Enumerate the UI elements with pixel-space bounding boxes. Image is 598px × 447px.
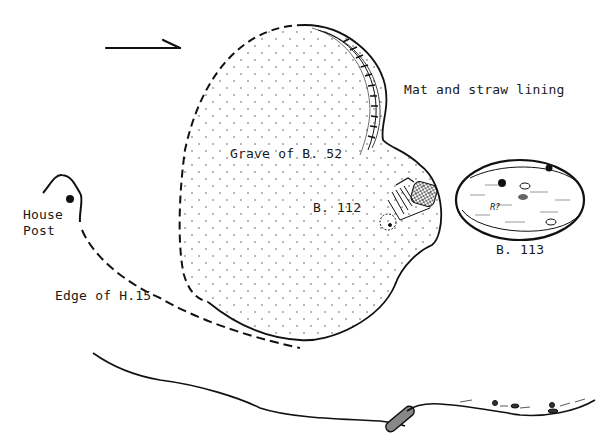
label-grave-b52: Grave of B. 52 [230, 146, 342, 161]
svg-text:R?: R? [490, 203, 501, 212]
label-house-post-line2: Post [23, 223, 55, 238]
diagram-canvas: R? [0, 0, 598, 447]
north-arrow-icon [106, 40, 180, 48]
label-b113: B. 113 [496, 242, 544, 257]
grave-b52-fill [180, 25, 441, 340]
burial-b113-pit: R? [456, 160, 584, 240]
label-b112: B. 112 [313, 200, 361, 215]
label-edge-h15: Edge of H.15 [55, 288, 151, 303]
label-house-post-line1: House [23, 207, 63, 222]
label-mat-lining: Mat and straw lining [404, 82, 565, 97]
section-profile [93, 353, 595, 434]
